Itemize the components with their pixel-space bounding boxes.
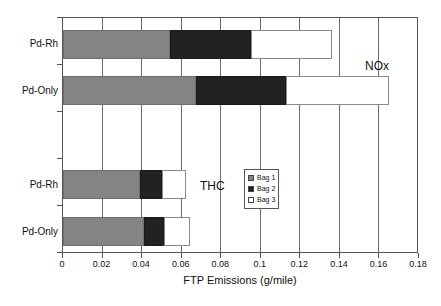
- xtick-0.16: [378, 253, 379, 258]
- xtick-0.06: [181, 253, 182, 258]
- legend-swatch-bag2: [248, 186, 254, 192]
- x-axis-title: FTP Emissions (g/mile): [62, 274, 418, 286]
- xtick-label-0.18: 0.18: [398, 259, 438, 269]
- bar-segment-bag3: [162, 170, 186, 199]
- xtick-label-0.12: 0.12: [279, 259, 319, 269]
- bar-nox-pd-only[interactable]: [63, 76, 389, 105]
- bar-segment-bag1: [63, 217, 144, 246]
- y-notch-2: [57, 111, 62, 112]
- xtick-0.12: [299, 253, 300, 258]
- y-notch-1: [57, 64, 62, 65]
- xtick-label-0.02: 0.02: [82, 259, 122, 269]
- xtick-0.14: [339, 253, 340, 258]
- bar-segment-bag2: [170, 30, 251, 59]
- y-notch-3: [57, 158, 62, 159]
- bar-segment-bag3: [164, 217, 190, 246]
- gridline-0.14: [339, 18, 340, 252]
- xtick-label-0.1: 0.1: [240, 259, 280, 269]
- xtick-0.18: [418, 253, 419, 258]
- legend-item-bag2: Bag 2: [248, 184, 275, 194]
- xtick-0.1: [260, 253, 261, 258]
- xtick-label-0.14: 0.14: [319, 259, 359, 269]
- category-label-thc-pd-only: Pd-Only: [2, 226, 58, 237]
- annotation-nox: NOx: [365, 60, 389, 73]
- bar-segment-bag1: [63, 30, 170, 59]
- xtick-0: [62, 253, 63, 258]
- y-notch-0: [57, 17, 62, 18]
- chart-figure: Bag 1 Bag 2 Bag 3 Pd-Rh Pd-Only Pd-Rh Pd…: [0, 0, 441, 306]
- legend: Bag 1 Bag 2 Bag 3: [244, 169, 279, 209]
- xtick-label-0.06: 0.06: [161, 259, 201, 269]
- legend-label-bag2: Bag 2: [257, 185, 275, 193]
- legend-item-bag1: Bag 1: [248, 173, 275, 183]
- bar-segment-bag1: [63, 170, 140, 199]
- category-label-nox-pd-rh: Pd-Rh: [2, 38, 58, 49]
- bar-segment-bag3: [251, 30, 332, 59]
- xtick-label-0: 0: [42, 259, 82, 269]
- legend-item-bag3: Bag 3: [248, 195, 275, 205]
- xtick-0.04: [141, 253, 142, 258]
- legend-label-bag3: Bag 3: [257, 196, 275, 204]
- category-label-thc-pd-rh: Pd-Rh: [2, 179, 58, 190]
- y-notch-4: [57, 205, 62, 206]
- category-label-nox-pd-only: Pd-Only: [2, 85, 58, 96]
- bar-thc-pd-only[interactable]: [63, 217, 190, 246]
- bar-nox-pd-rh[interactable]: [63, 30, 332, 59]
- legend-label-bag1: Bag 1: [257, 174, 275, 182]
- bar-segment-bag2: [144, 217, 164, 246]
- xtick-0.02: [102, 253, 103, 258]
- xtick-label-0.08: 0.08: [200, 259, 240, 269]
- gridline-0.16: [378, 18, 379, 252]
- annotation-thc: THC: [200, 180, 225, 193]
- plot-area: Bag 1 Bag 2 Bag 3: [62, 17, 418, 253]
- bar-segment-bag2: [196, 76, 287, 105]
- xtick-0.08: [220, 253, 221, 258]
- bar-segment-bag2: [140, 170, 162, 199]
- legend-swatch-bag3: [248, 197, 254, 203]
- bar-segment-bag1: [63, 76, 196, 105]
- bar-thc-pd-rh[interactable]: [63, 170, 186, 199]
- xtick-label-0.16: 0.16: [358, 259, 398, 269]
- legend-swatch-bag1: [248, 175, 254, 181]
- xtick-label-0.04: 0.04: [121, 259, 161, 269]
- bar-segment-bag3: [286, 76, 389, 105]
